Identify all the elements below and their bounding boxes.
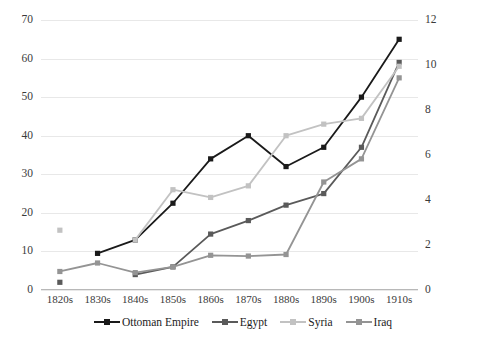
y-tick-left: 10 <box>3 245 33 257</box>
data-point-marker <box>283 203 288 208</box>
series-line <box>135 62 399 274</box>
data-point-marker <box>246 133 251 138</box>
series-iraq <box>57 75 402 275</box>
legend-entry-ottoman-empire[interactable]: Ottoman Empire <box>94 316 199 328</box>
y-tick-left: 30 <box>3 168 33 180</box>
data-point-marker <box>359 145 364 150</box>
y-tick-right: 2 <box>425 239 455 251</box>
x-tick: 1910s <box>376 294 422 305</box>
data-point-marker <box>359 156 364 161</box>
series-egypt <box>57 60 402 285</box>
y-tick-right: 8 <box>425 104 455 116</box>
y-tick-right: 10 <box>425 59 455 71</box>
data-point-marker <box>170 264 175 269</box>
legend-entry-syria[interactable]: Syria <box>280 316 332 328</box>
legend-label: Iraq <box>374 316 393 328</box>
y-tick-right: 0 <box>425 284 455 296</box>
legend-swatch-icon <box>346 318 372 327</box>
data-point-marker <box>397 75 402 80</box>
y-tick-left: 50 <box>3 91 33 103</box>
chart-container: 010203040506070 024681012 1820s1830s1840… <box>0 0 486 344</box>
data-point-marker <box>246 253 251 258</box>
legend-swatch-icon <box>212 318 238 327</box>
chart-legend: Ottoman EmpireEgyptSyriaIraq <box>0 316 486 328</box>
data-point-marker <box>321 145 326 150</box>
data-point-marker <box>321 191 326 196</box>
y-tick-left: 0 <box>3 284 33 296</box>
legend-swatch-icon <box>280 318 306 327</box>
series-layer <box>41 20 418 290</box>
y-tick-right: 12 <box>425 14 455 26</box>
legend-swatch-icon <box>94 318 120 327</box>
data-point-marker <box>246 183 251 188</box>
data-point-marker <box>397 64 402 69</box>
legend-label: Ottoman Empire <box>122 316 199 328</box>
data-point-marker <box>208 195 213 200</box>
series-line <box>60 78 399 273</box>
legend-entry-iraq[interactable]: Iraq <box>346 316 393 328</box>
y-tick-left: 70 <box>3 14 33 26</box>
data-point-marker <box>283 252 288 257</box>
plot-area <box>41 20 418 290</box>
data-point-marker <box>208 156 213 161</box>
y-tick-left: 40 <box>3 130 33 142</box>
legend-label: Syria <box>308 316 332 328</box>
data-point-marker <box>283 133 288 138</box>
y-tick-right: 4 <box>425 194 455 206</box>
data-point-marker <box>57 228 62 233</box>
data-point-marker <box>359 95 364 100</box>
data-point-marker <box>95 251 100 256</box>
data-point-marker <box>246 218 251 223</box>
data-point-marker <box>133 237 138 242</box>
y-tick-left: 60 <box>3 53 33 65</box>
data-point-marker <box>133 270 138 275</box>
series-syria <box>57 64 402 243</box>
data-point-marker <box>208 253 213 258</box>
y-tick-left: 20 <box>3 207 33 219</box>
data-point-marker <box>57 269 62 274</box>
legend-label: Egypt <box>240 316 267 328</box>
data-point-marker <box>283 164 288 169</box>
data-point-marker <box>359 116 364 121</box>
data-point-marker <box>170 201 175 206</box>
data-point-marker <box>208 231 213 236</box>
y-tick-right: 6 <box>425 149 455 161</box>
data-point-marker <box>321 179 326 184</box>
data-point-marker <box>57 280 62 285</box>
legend-entry-egypt[interactable]: Egypt <box>212 316 267 328</box>
data-point-marker <box>95 260 100 265</box>
data-point-marker <box>170 187 175 192</box>
data-point-marker <box>321 122 326 127</box>
data-point-marker <box>397 37 402 42</box>
gridline <box>41 290 418 291</box>
